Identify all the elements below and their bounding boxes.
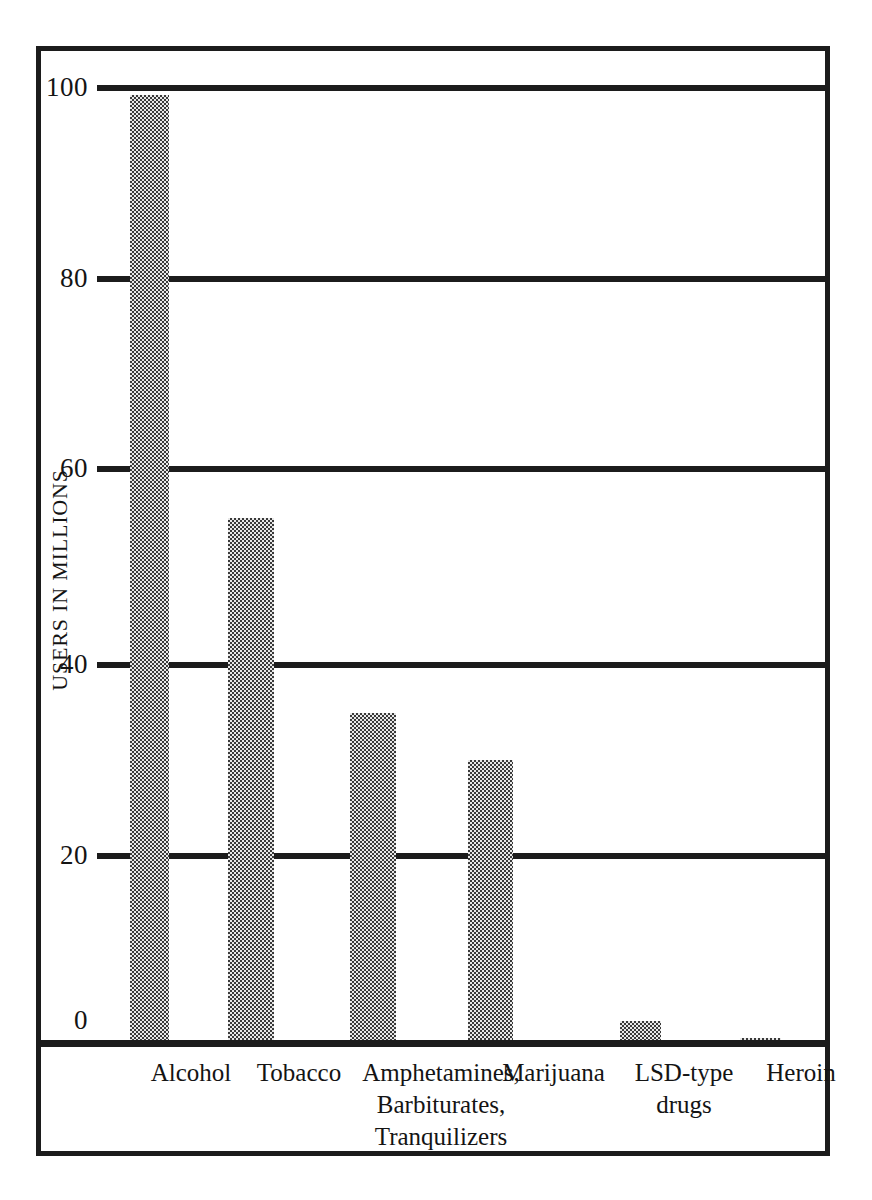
bar-alcohol	[130, 95, 169, 1043]
x-label-heroin-line-1: Heroin	[731, 1057, 871, 1089]
x-label-lsd-line-2: drugs	[604, 1089, 764, 1121]
bar-amphetamines	[350, 713, 396, 1044]
x-label-amphetamines-line-2: Barbiturates,	[331, 1089, 551, 1121]
bar-tobacco	[228, 518, 274, 1043]
x-label-amphetamines-line-3: Tranquilizers	[331, 1121, 551, 1153]
bars-layer	[0, 0, 872, 1043]
bar-marijuana	[468, 760, 513, 1043]
x-label-heroin: Heroin	[731, 1057, 871, 1089]
bar-chart: 100 80 60 40 20 0 USERS IN MILLIONS Alco…	[0, 0, 872, 1200]
x-axis-label-band: Alcohol Tobacco Amphetamines, Barbiturat…	[41, 1047, 830, 1151]
x-axis-baseline	[41, 1040, 830, 1047]
